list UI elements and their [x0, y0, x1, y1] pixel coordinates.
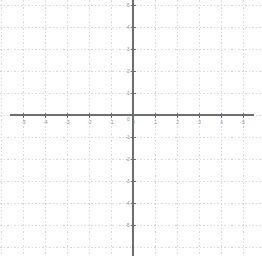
y-tick-label: 0: [127, 117, 130, 122]
x-tick-label: -1: [109, 120, 114, 125]
y-tick-label: -5: [125, 223, 130, 228]
x-tick-label: -3: [65, 120, 70, 125]
coordinate-plane[interactable]: -5-4-3-2-1012345 543210-1-2-3-4-5: [0, 0, 262, 256]
x-tick-label: 5: [242, 120, 245, 125]
graph-canvas[interactable]: -5-4-3-2-1012345 543210-1-2-3-4-5: [0, 0, 262, 256]
y-tick-label: -2: [125, 157, 130, 162]
x-tick-label: -4: [43, 120, 48, 125]
y-tick-label: -3: [125, 179, 130, 184]
axes: [10, 0, 254, 256]
x-tick-label: -5: [21, 120, 26, 125]
x-tick-label: 2: [176, 120, 179, 125]
y-tick-label: 1: [127, 91, 130, 96]
y-tick-label: 4: [127, 25, 130, 30]
x-tick-label: 0: [132, 120, 135, 125]
y-tick-label: -4: [125, 201, 130, 206]
y-tick-label: 5: [127, 3, 130, 8]
x-tick-label: 3: [198, 120, 201, 125]
y-tick-label: 3: [127, 47, 130, 52]
vertical-gridlines: [2, 0, 244, 256]
x-tick-label: -2: [87, 120, 92, 125]
x-tick-label: 1: [154, 120, 157, 125]
x-axis-tick-labels: -5-4-3-2-1012345: [21, 120, 245, 125]
y-tick-label: -1: [125, 135, 130, 140]
x-tick-label: 4: [220, 120, 223, 125]
y-tick-label: 2: [127, 69, 130, 74]
horizontal-gridlines: [0, 6, 262, 248]
